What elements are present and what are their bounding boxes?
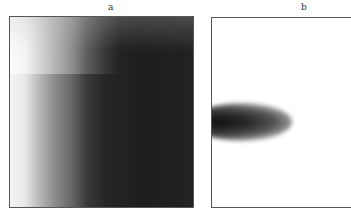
panel-a-label: a bbox=[108, 2, 113, 12]
panel-a-image bbox=[9, 16, 194, 208]
panel-b-blob bbox=[211, 103, 292, 141]
panel-a-highlight bbox=[10, 17, 193, 74]
panel-b-image bbox=[211, 17, 351, 208]
panel-b-label: b bbox=[301, 2, 307, 12]
